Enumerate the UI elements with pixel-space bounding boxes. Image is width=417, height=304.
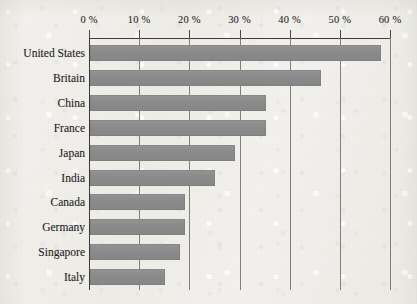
x-tick-mark (240, 30, 241, 38)
bar (90, 70, 321, 86)
chart-row: Britain (0, 70, 417, 87)
bar (90, 45, 381, 61)
chart-row: India (0, 170, 417, 187)
x-tick-label: 30 % (228, 14, 251, 25)
chart-row: Italy (0, 269, 417, 286)
chart-row: France (0, 120, 417, 137)
x-tick-label: 50 % (328, 14, 351, 25)
category-label: Germany (42, 220, 85, 235)
x-tick-label: 60 % (379, 14, 402, 25)
category-label: India (61, 171, 85, 186)
chart-row: Singapore (0, 244, 417, 261)
category-label: Singapore (38, 245, 85, 260)
x-tick-mark (390, 30, 391, 38)
x-tick-label: 10 % (128, 14, 151, 25)
x-tick-label: 20 % (178, 14, 201, 25)
chart-row: Japan (0, 145, 417, 162)
horizontal-bar-chart: 0 %10 %20 %30 %40 %50 %60 % United State… (0, 0, 417, 304)
category-label: United States (23, 46, 85, 61)
bar (90, 194, 185, 210)
bar (90, 269, 165, 285)
category-label: Canada (51, 195, 85, 210)
chart-row: Germany (0, 219, 417, 236)
bar (90, 95, 266, 111)
chart-row: United States (0, 45, 417, 62)
category-label: Japan (59, 146, 85, 161)
x-tick-mark (340, 30, 341, 38)
bar (90, 120, 266, 136)
chart-page: 0 %10 %20 %30 %40 %50 %60 % United State… (0, 0, 417, 304)
bar (90, 170, 215, 186)
bar (90, 219, 185, 235)
chart-row: China (0, 95, 417, 112)
category-label: China (58, 96, 85, 111)
x-tick-mark (290, 30, 291, 38)
x-tick-label: 40 % (278, 14, 301, 25)
bar (90, 145, 235, 161)
category-label: Britain (53, 71, 85, 86)
chart-row: Canada (0, 194, 417, 211)
x-tick-mark (89, 30, 90, 38)
x-tick-mark (139, 30, 140, 38)
category-label: France (54, 121, 85, 136)
x-tick-label: 0 % (80, 14, 97, 25)
bar (90, 244, 180, 260)
x-tick-mark (189, 30, 190, 38)
category-label: Italy (64, 270, 85, 285)
